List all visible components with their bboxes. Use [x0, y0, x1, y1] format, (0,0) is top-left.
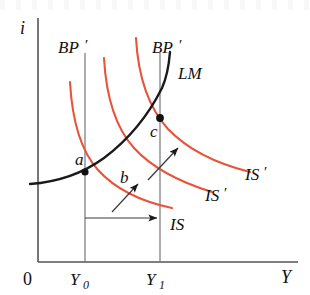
x-axis-label: Y [281, 267, 293, 287]
is-label-shift-2-prime: ′ [264, 164, 267, 180]
x-tick-label-y1: Y 1 [146, 270, 165, 292]
is-label-shift-1: IS ′ [204, 185, 227, 205]
is-label-base: IS [169, 215, 185, 234]
bp-label-left: BP ′ [58, 37, 88, 57]
bp-label-left-text: BP [58, 38, 79, 57]
y-axis-label: i [20, 18, 25, 38]
x-tick-y1-base: Y [146, 270, 157, 289]
bp-label-right-text: BP [152, 38, 173, 57]
bp-lines-group [85, 53, 160, 262]
point-a-label: a [75, 150, 84, 169]
bp-label-right: BP ′ [152, 37, 182, 57]
diagram-canvas: i Y 0 Y 0 Y 1 BP ′ BP ′ LM IS IS ′ [0, 0, 310, 295]
point-c-marker [156, 114, 164, 122]
is-label-shift-2: IS ′ [244, 164, 267, 184]
is-label-shift-1-prime: ′ [224, 185, 227, 201]
point-c-label: c [150, 122, 158, 141]
bp-label-right-prime: ′ [179, 37, 182, 53]
x-tick-y1-subscript: 1 [159, 278, 165, 292]
lm-curve-group [30, 52, 170, 184]
x-tick-label-y0: Y 0 [70, 270, 89, 292]
is-shift-arrow-lower [112, 184, 138, 212]
origin-label: 0 [23, 269, 32, 289]
bp-label-left-prime: ′ [85, 37, 88, 53]
point-a-marker [81, 168, 88, 175]
point-b-label: b [120, 168, 129, 187]
x-tick-y0-base: Y [70, 270, 81, 289]
is-label-shift-2-text: IS [244, 165, 260, 184]
is-lm-bp-diagram: i Y 0 Y 0 Y 1 BP ′ BP ′ LM IS IS ′ [0, 0, 310, 295]
is-label-shift-1-text: IS [204, 186, 220, 205]
arrows-group [85, 148, 178, 218]
lm-curve [30, 52, 170, 184]
lm-label: LM [177, 64, 202, 83]
x-tick-y0-subscript: 0 [83, 278, 89, 292]
